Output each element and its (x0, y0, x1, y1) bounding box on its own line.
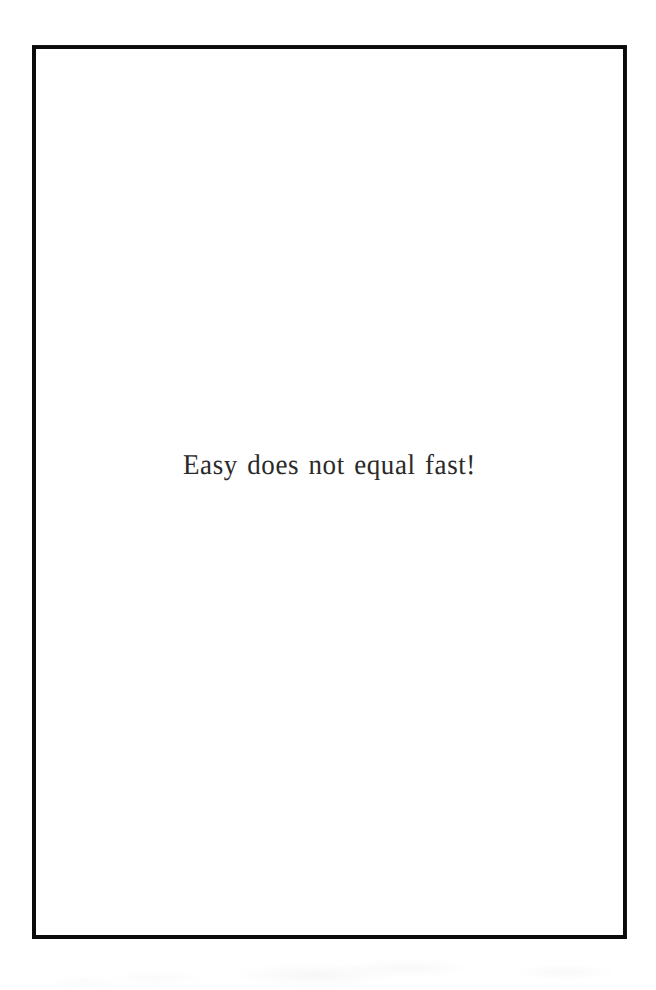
epigraph-block: Easy does not equal fast! (36, 449, 623, 483)
epigraph-text: Easy does not equal fast! (183, 448, 476, 484)
printed-rule-border: Easy does not equal fast! (32, 45, 627, 939)
scanned-page: Easy does not equal fast! (0, 0, 656, 990)
border-ink-variation (32, 45, 627, 939)
